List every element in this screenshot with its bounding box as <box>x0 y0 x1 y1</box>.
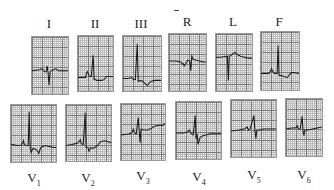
stray-mark <box>174 10 179 11</box>
lead-label-r: R <box>167 14 207 30</box>
ecg-panel-lead-r <box>168 33 207 92</box>
lead-label-v6: V6 <box>284 167 324 185</box>
ecg-panel-lead-v3 <box>120 103 166 161</box>
lead-label-v1: V1 <box>14 170 54 188</box>
ecg-panel-lead-v4 <box>175 101 222 160</box>
lead-label-l: L <box>213 14 253 30</box>
lead-label-v5: V5 <box>234 167 274 185</box>
lead-label-v4: V4 <box>179 169 219 187</box>
lead-label-v2: V2 <box>68 170 108 188</box>
ecg-panel-lead-v1 <box>10 104 57 163</box>
lead-label-v3: V3 <box>123 168 163 186</box>
lead-label-i: I <box>29 16 69 32</box>
ecg-panel-lead-ii <box>77 35 114 92</box>
ecg-panel-lead-v6 <box>285 98 323 157</box>
ecg-panel-lead-iii <box>122 35 162 92</box>
ecg-panel-lead-l <box>215 33 253 92</box>
lead-label-ii: II <box>75 16 115 32</box>
ecg-panel-lead-v5 <box>230 99 277 158</box>
ecg-panel-lead-i <box>31 36 69 95</box>
lead-label-f: F <box>259 14 299 30</box>
lead-label-iii: III <box>121 16 161 32</box>
ecg-panel-lead-f <box>260 31 300 91</box>
ecg-panel-lead-v2 <box>65 104 112 162</box>
